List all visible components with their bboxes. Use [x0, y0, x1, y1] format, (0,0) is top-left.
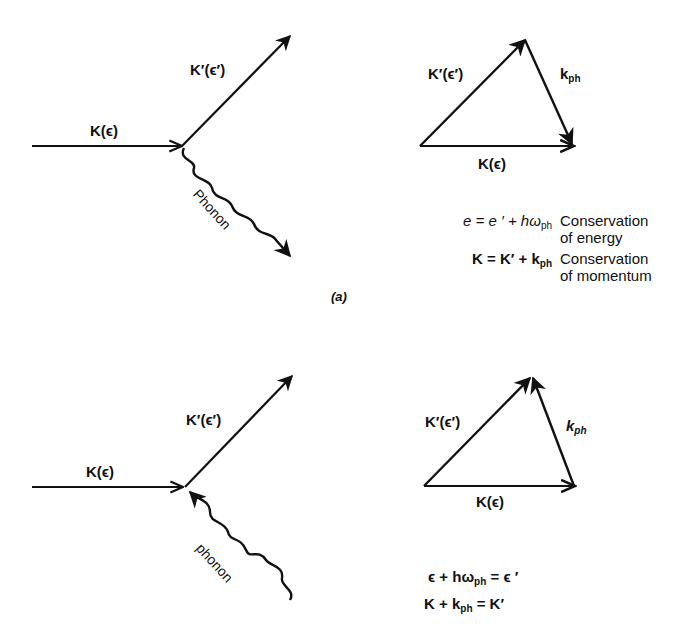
panel-a-triangle [420, 40, 574, 146]
outgoing-electron-line-b [185, 376, 292, 487]
equations-b: ϵ + hωph = ϵ ′ K + kph = K′ [424, 566, 518, 620]
diagram-canvas [0, 0, 690, 632]
equations-a: e = e ′ + hωph Conservationof energy K =… [428, 212, 652, 284]
panel-b-triangle [424, 378, 575, 486]
triangle-label-k-prime-b: K′(ϵ′) [425, 414, 460, 429]
panel-a-caption: (a) [331, 290, 347, 303]
vector-k-prime-a [420, 40, 525, 146]
vector-k-ph-a [525, 40, 572, 144]
momentum-conservation-row: K = K′ + kph Conservationof momentum [428, 250, 652, 284]
energy-description: Conservationof energy [560, 212, 648, 246]
label-outgoing-k-prime-a: K′(ϵ′) [190, 62, 225, 77]
outgoing-electron-line-a [182, 36, 290, 146]
energy-equation-b: ϵ + hωph = ϵ ′ [424, 566, 518, 593]
triangle-label-k-a: K(ϵ) [478, 156, 506, 171]
panel-b-feynman [32, 376, 292, 600]
label-incoming-k-a: K(ϵ) [90, 123, 118, 138]
momentum-equation-b: K + kph = K′ [424, 593, 518, 620]
label-incoming-k-b: K(ϵ) [86, 464, 114, 479]
label-outgoing-k-prime-b: K′(ϵ′) [186, 412, 221, 427]
triangle-label-k-ph-b: kph [566, 418, 587, 436]
vector-k-prime-b [424, 378, 530, 486]
momentum-description: Conservationof momentum [560, 250, 652, 284]
momentum-equation: K = K′ + kph [428, 250, 552, 272]
energy-equation: e = e ′ + hωph [428, 212, 552, 234]
triangle-label-k-ph-a: kph [560, 66, 581, 84]
triangle-label-k-b: K(ϵ) [476, 494, 504, 509]
triangle-label-k-prime-a: K′(ϵ′) [428, 66, 463, 81]
energy-conservation-row: e = e ′ + hωph Conservationof energy [428, 212, 652, 246]
panel-a-feynman [32, 36, 290, 256]
